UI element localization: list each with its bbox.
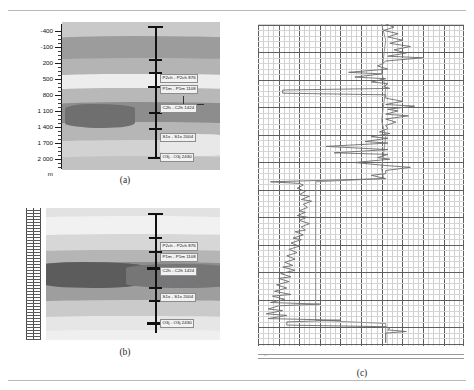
horizon-label-s1x: S1x - S1x 2004 [160, 133, 196, 142]
ladder-rung [26, 300, 41, 301]
horizon-annotation: C2h - C2h [163, 279, 186, 286]
ladder-rung [26, 261, 41, 262]
depth-tick-label: 1 400 [38, 123, 53, 130]
cross-section-a [62, 22, 220, 170]
depth-tick-label: -100 [41, 43, 53, 50]
ladder-rung [26, 240, 41, 241]
strata-band [62, 156, 220, 170]
ladder-rung [26, 327, 41, 328]
axis-major-tick [55, 111, 62, 112]
well-tick [148, 213, 163, 215]
axis-major-tick [55, 95, 62, 96]
axis-major-tick [55, 127, 62, 128]
panel-c-caption: (c) [250, 368, 474, 378]
ladder-rung [26, 243, 41, 244]
ladder-rung [26, 333, 41, 334]
horizon-label-p2ch: P2ch - P2ch 876 [160, 74, 198, 83]
horizon-label-p1m: P1m - P1m 1108 [160, 253, 198, 262]
ladder-rung [26, 330, 41, 331]
ladder-rung [26, 312, 41, 313]
log-scale-bar: m [258, 354, 464, 362]
ladder-rung [26, 324, 41, 325]
axis-major-tick [55, 159, 62, 160]
depth-tick-label: 800 [43, 91, 53, 98]
depth-axis-panel-a: -400 -100 200 500 800 1 100 1 400 1 700 … [20, 24, 62, 169]
depth-tick-label: -400 [41, 27, 53, 34]
well-track-b [155, 213, 157, 333]
ladder-rung [26, 291, 41, 292]
log-traces [258, 24, 464, 346]
ladder-rung [26, 228, 41, 229]
horizon-label-s1x: S1x - S1x 2004 [160, 293, 196, 302]
ladder-rung [26, 231, 41, 232]
log-trace-1 [266, 24, 423, 343]
ladder-rung [26, 285, 41, 286]
horizon-label-p2ch: P2ch - P2ch 876 [160, 242, 198, 251]
ladder-rung [26, 309, 41, 310]
ladder-rung [26, 225, 41, 226]
well-tick [149, 59, 162, 61]
ladder-rung [26, 282, 41, 283]
panel-a: -400 -100 200 500 800 1 100 1 400 1 700 … [0, 18, 250, 193]
horizon-label-c2h: C2h - C2h 1424 [160, 104, 197, 113]
horizon-label-o3j: O3j - O3j 2430 [160, 153, 194, 162]
depth-tick-label: 200 [43, 59, 53, 66]
ladder-rung [26, 279, 41, 280]
strata-band [46, 330, 220, 340]
ladder-rung [26, 210, 41, 211]
ladder-rung [26, 213, 41, 214]
ladder-rung [26, 222, 41, 223]
horizon-label-p1m: P1m - P1m 1108 [160, 85, 198, 94]
strata-lens [65, 104, 135, 128]
ladder-rung [26, 264, 41, 265]
ladder-rung [26, 303, 41, 304]
horizon-label-c2h: C2h - C2h 1424 [160, 267, 197, 276]
panel-c: m (c) [250, 18, 474, 370]
axis-major-tick [55, 63, 62, 64]
panel-a-caption: (a) [0, 175, 250, 185]
ladder-rung [26, 288, 41, 289]
ladder-rung [26, 249, 41, 250]
ladder-rung [26, 294, 41, 295]
page-rule-bottom [8, 380, 466, 381]
ladder-rung [26, 321, 41, 322]
ladder-rung [26, 276, 41, 277]
figure-page: -400 -100 200 500 800 1 100 1 400 1 700 … [0, 0, 474, 390]
ladder-rung [26, 318, 41, 319]
well-tick [149, 128, 162, 130]
ladder-rung [26, 306, 41, 307]
well-log-grid [258, 24, 464, 346]
well-tick [149, 237, 162, 239]
depth-tick-label: 2 000 [38, 155, 53, 162]
ladder-rung [26, 234, 41, 235]
depth-tick-label: 1 700 [38, 139, 53, 146]
depth-tick-label: 1 100 [38, 107, 53, 114]
ladder-rung [26, 270, 41, 271]
well-tick [149, 287, 162, 289]
ladder-rung [26, 339, 41, 340]
panel-b: P2ch - P2ch 876 P1m - P1m 1108 C2h - C2h… [0, 205, 250, 370]
ladder-rung [26, 252, 41, 253]
page-rule-top [8, 10, 466, 11]
axis-major-tick [55, 31, 62, 32]
ladder-rung [26, 258, 41, 259]
ladder-rung [26, 336, 41, 337]
ladder-rung [26, 219, 41, 220]
ladder-rung [26, 216, 41, 217]
ladder-rung [26, 267, 41, 268]
ladder-rung [26, 246, 41, 247]
axis-major-tick [55, 143, 62, 144]
ladder-rung [26, 237, 41, 238]
axis-major-tick [55, 47, 62, 48]
ladder-scale-panel-b [26, 208, 48, 340]
well-track-a [155, 26, 157, 158]
axis-major-tick [55, 79, 62, 80]
ladder-rung [26, 273, 41, 274]
ladder-rung [26, 315, 41, 316]
ladder-rung [26, 297, 41, 298]
ladder-rung [26, 255, 41, 256]
depth-tick-label: 500 [43, 75, 53, 82]
panel-b-caption: (b) [0, 347, 250, 357]
horizon-label-o3j: O3j - O3j 2430 [160, 319, 194, 328]
well-tick [148, 26, 163, 28]
